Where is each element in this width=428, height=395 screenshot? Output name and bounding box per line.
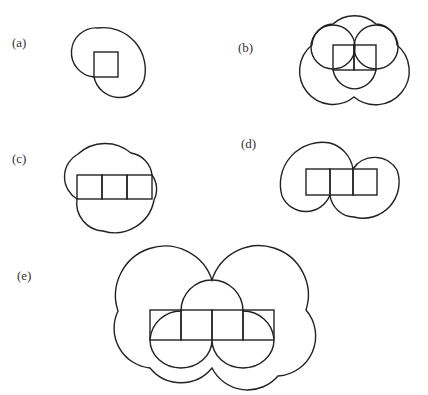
panel-e-cell-3 [212,310,243,340]
panel-a [71,28,145,98]
panel-c-cell-2 [102,175,127,199]
panel-c-outline [65,143,157,232]
panel-e-cell-2 [181,310,212,340]
panel-b [300,16,410,105]
diagram-canvas [0,0,428,395]
panel-a-cell-1 [94,52,118,77]
panel-c-cell-3 [127,175,152,199]
panel-c [65,143,157,232]
panel-d [280,142,399,218]
panel-e-lower-arcs [150,340,274,368]
panel-e-outer-outline [114,246,316,390]
panel-b-circle-bottom [333,70,376,89]
panel-d-cell-2 [330,169,353,195]
panel-d-cell-1 [306,169,330,195]
panel-c-cell-1 [77,175,102,199]
panel-a-outline [71,28,145,98]
panel-d-outline [280,142,399,218]
panel-d-cell-3 [353,169,377,195]
panel-e [114,246,316,390]
